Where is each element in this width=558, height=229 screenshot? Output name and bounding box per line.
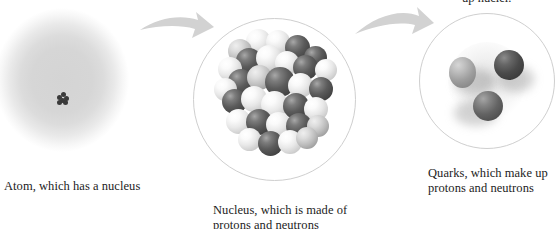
caption-atom: Atom, which has a nucleus <box>4 179 140 194</box>
arrow-atom-to-nucleus-icon <box>140 8 216 52</box>
quark-sphere-left <box>449 57 476 88</box>
quark-sphere-right <box>494 50 524 80</box>
caption-nucleus: Nucleus, which is made of protons and ne… <box>213 203 347 229</box>
atom-center-nucleus-icon <box>57 92 70 105</box>
electron-cloud <box>0 8 132 158</box>
nucleus-sphere-cluster <box>214 29 338 159</box>
caption-quarks: Quarks, which make up protons and neutro… <box>428 166 548 195</box>
atom-illustration <box>0 8 140 163</box>
quark-sphere-bottom <box>473 91 503 121</box>
arrow-nucleus-to-quarks-icon <box>355 2 435 48</box>
quark-triplet-illustration <box>440 36 534 128</box>
cut-off-heading-fragment: up nuclei. <box>462 0 511 6</box>
figure-canvas: up nuclei. <box>0 0 558 229</box>
